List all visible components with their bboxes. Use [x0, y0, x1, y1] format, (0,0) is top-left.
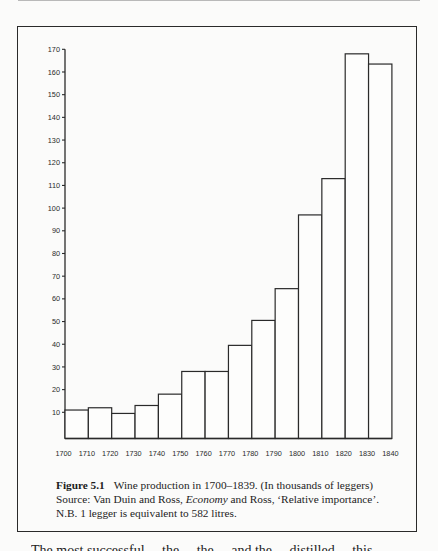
y-tick-label: 60	[52, 294, 60, 303]
y-axis: 1020304050607080901001101201301401501601…	[48, 45, 65, 439]
y-tick-label: 40	[52, 340, 60, 349]
y-tick-label: 120	[48, 158, 60, 167]
caption-title-line: Figure 5.1Wine production in 1700–1839. …	[56, 478, 416, 492]
y-tick-label: 10	[52, 408, 60, 417]
y-tick-label: 90	[52, 226, 60, 235]
bar-1760	[205, 371, 228, 438]
figure-title: Wine production in 1700–1839. (In thousa…	[114, 479, 373, 491]
figure-label: Figure 5.1	[56, 479, 105, 491]
bar-1810	[322, 179, 345, 439]
x-tick-label: 1760	[195, 449, 211, 458]
x-tick-label: 1830	[359, 449, 375, 458]
body-text-partial-line: The most successful ... the ... the ... …	[31, 543, 431, 551]
bar-1730	[135, 405, 158, 438]
source-suffix: and Ross, ‘Relative importance’.	[228, 493, 379, 505]
y-tick-label: 80	[52, 249, 60, 258]
bar-1700	[65, 410, 88, 438]
bars	[65, 54, 392, 439]
x-tick-label: 1780	[242, 449, 258, 458]
x-tick-label: 1720	[102, 449, 118, 458]
x-tick-label: 1820	[336, 449, 352, 458]
bar-1790	[275, 289, 298, 439]
caption-note: N.B. 1 legger is equivalent to 582 litre…	[56, 506, 416, 520]
bar-1770	[228, 345, 251, 438]
x-tick-label: 1750	[172, 449, 188, 458]
x-tick-label: 1800	[289, 449, 305, 458]
y-tick-label: 30	[52, 363, 60, 372]
bar-1750	[182, 371, 205, 438]
y-tick-label: 160	[48, 68, 60, 77]
bar-1720	[112, 413, 135, 438]
x-tick-label: 1730	[125, 449, 141, 458]
source-prefix: Source: Van Duin and Ross,	[56, 493, 186, 505]
x-tick-label: 1700	[55, 449, 71, 458]
bar-chart: 1020304050607080901001101201301401501601…	[0, 0, 438, 551]
x-tick-label: 1810	[312, 449, 328, 458]
x-tick-label: 1740	[149, 449, 165, 458]
bar-1710	[88, 408, 111, 439]
y-tick-label: 110	[48, 181, 60, 190]
x-tick-label: 1790	[266, 449, 282, 458]
x-tick-label: 1770	[219, 449, 235, 458]
bar-1820	[345, 54, 368, 439]
y-tick-label: 140	[48, 113, 60, 122]
bar-1800	[299, 215, 322, 439]
y-tick-label: 130	[48, 136, 60, 145]
x-tick-label: 1710	[79, 449, 95, 458]
y-tick-label: 100	[48, 204, 60, 213]
figure-caption: Figure 5.1Wine production in 1700–1839. …	[56, 478, 416, 520]
caption-source-line: Source: Van Duin and Ross, Economy and R…	[56, 492, 416, 506]
x-axis: 1700171017201730174017501760177017801790…	[55, 439, 398, 458]
y-tick-label: 20	[52, 385, 60, 394]
bar-1740	[158, 394, 181, 438]
y-tick-label: 150	[48, 90, 60, 99]
y-tick-label: 50	[52, 317, 60, 326]
y-tick-label: 170	[48, 45, 60, 54]
source-italic: Economy	[186, 493, 228, 505]
bar-1830	[369, 64, 392, 438]
y-tick-label: 70	[52, 272, 60, 281]
bar-1780	[252, 320, 275, 438]
x-tick-label: 1840	[382, 449, 398, 458]
